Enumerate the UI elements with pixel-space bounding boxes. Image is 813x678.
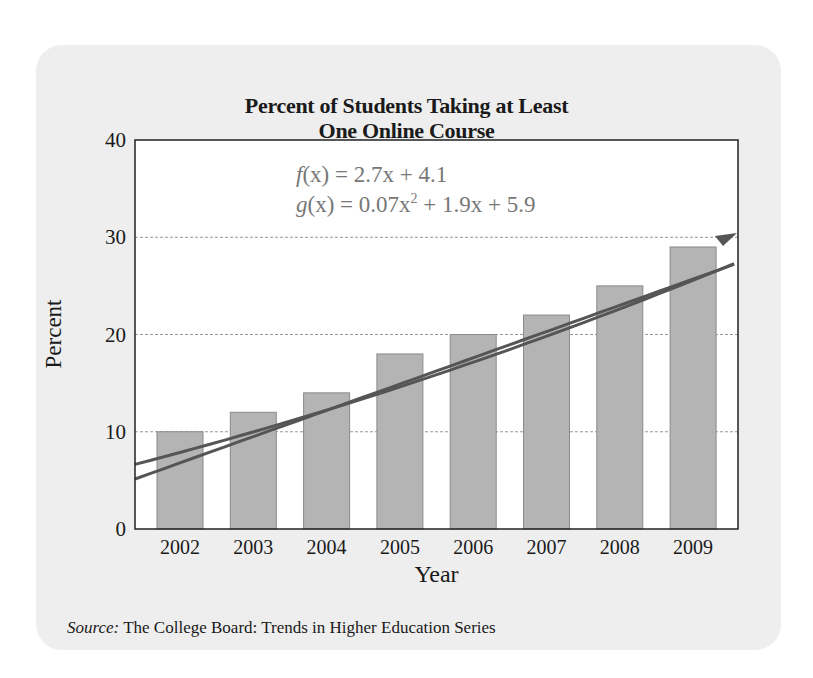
- x-tick-label: 2009: [673, 536, 713, 558]
- equation-f: f(x) = 2.7x + 4.1: [296, 162, 447, 188]
- y-tick-label: 40: [105, 128, 126, 152]
- equation-g-body-b: + 1.9x + 5.9: [418, 192, 536, 217]
- x-tick-label: 2007: [527, 536, 567, 558]
- y-tick-label: 30: [105, 225, 126, 249]
- source-text: The College Board: Trends in Higher Educ…: [119, 618, 495, 637]
- equation-f-body: (x) = 2.7x + 4.1: [302, 162, 447, 187]
- x-tick-label: 2005: [380, 536, 420, 558]
- x-tick-label: 2008: [600, 536, 640, 558]
- bar: [670, 247, 716, 529]
- y-tick-labels: 010203040: [105, 128, 126, 541]
- x-axis-label: Year: [0, 561, 813, 588]
- y-axis-label: Percent: [41, 300, 67, 369]
- source-label: Source:: [67, 618, 119, 637]
- y-tick-label: 20: [105, 323, 126, 347]
- x-tick-label: 2003: [233, 536, 273, 558]
- bar: [597, 286, 643, 529]
- y-tick-label: 10: [105, 420, 126, 444]
- y-tick-label: 0: [116, 517, 127, 541]
- equation-g-name: g: [296, 192, 308, 217]
- x-tick-label: 2004: [307, 536, 347, 558]
- x-tick-label: 2002: [160, 536, 200, 558]
- bar: [304, 393, 350, 529]
- bar: [524, 315, 570, 529]
- x-tick-label: 2006: [453, 536, 493, 558]
- equation-g: g(x) = 0.07x2 + 1.9x + 5.9: [296, 192, 536, 218]
- bar: [157, 432, 203, 529]
- equation-g-exponent: 2: [411, 191, 418, 206]
- x-tick-labels: 20022003200420052006200720082009: [160, 536, 713, 558]
- equation-g-body-a: (x) = 0.07x: [308, 192, 411, 217]
- source-note: Source: The College Board: Trends in Hig…: [67, 618, 496, 638]
